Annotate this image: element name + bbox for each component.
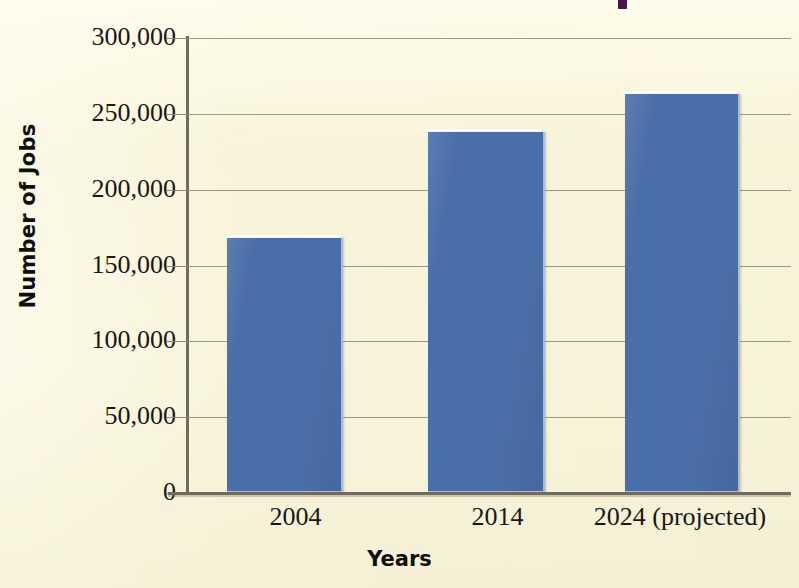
page-edge-mark: [618, 0, 627, 9]
y-axis-tick: [166, 417, 188, 418]
bar: [625, 94, 740, 493]
y-axis-tick-label: 150,000: [92, 252, 177, 278]
bar: [227, 238, 343, 493]
x-axis-line-shadow: [168, 495, 791, 497]
y-axis-tick-label: 50,000: [105, 403, 177, 429]
bar: [428, 132, 545, 493]
gridline: [188, 38, 791, 39]
y-axis-tick-label: 300,000: [92, 24, 177, 50]
chart-page: Number of Jobs 050,000100,000150,000200,…: [0, 0, 799, 588]
y-axis-tick-label: 100,000: [92, 327, 177, 353]
y-axis-tick-label: 200,000: [92, 176, 177, 202]
x-axis-category-label: 2004: [188, 503, 403, 532]
y-axis-tick-labels: 050,000100,000150,000200,000250,000300,0…: [0, 38, 176, 493]
y-axis-tick: [166, 114, 188, 115]
y-axis-tick: [166, 266, 188, 267]
y-axis-tick: [166, 341, 188, 342]
plot-area: [188, 38, 791, 493]
y-axis-tick: [166, 38, 188, 39]
x-axis-title: Years: [0, 547, 799, 571]
y-axis-tick: [166, 190, 188, 191]
y-axis-tick-label: 250,000: [92, 100, 177, 126]
x-axis-category-label: 2024 (projected): [565, 503, 795, 532]
